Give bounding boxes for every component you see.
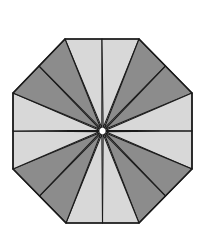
octagon-diagram — [0, 0, 205, 237]
